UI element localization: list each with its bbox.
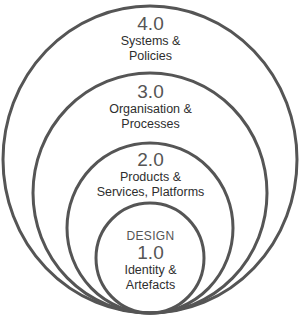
level-1-line-1: Identity & bbox=[0, 263, 301, 278]
level-4-line-1: Systems & bbox=[0, 34, 301, 49]
level-4-number: 4.0 bbox=[0, 14, 301, 34]
design-prefix: DESIGN bbox=[0, 229, 301, 243]
level-3-line-2: Processes bbox=[0, 117, 301, 132]
level-3-number: 3.0 bbox=[0, 82, 301, 102]
level-3-line-1: Organisation & bbox=[0, 102, 301, 117]
level-1-number: 1.0 bbox=[0, 243, 301, 263]
level-1-line-2: Artefacts bbox=[0, 278, 301, 293]
level-3-label: 3.0 Organisation & Processes bbox=[0, 82, 301, 132]
level-2-line-2: Services, Platforms bbox=[0, 185, 301, 200]
level-2-number: 2.0 bbox=[0, 150, 301, 170]
level-4-label: 4.0 Systems & Policies bbox=[0, 14, 301, 64]
level-2-label: 2.0 Products & Services, Platforms bbox=[0, 150, 301, 200]
level-2-line-1: Products & bbox=[0, 170, 301, 185]
level-1-label: DESIGN 1.0 Identity & Artefacts bbox=[0, 229, 301, 293]
level-4-line-2: Policies bbox=[0, 49, 301, 64]
